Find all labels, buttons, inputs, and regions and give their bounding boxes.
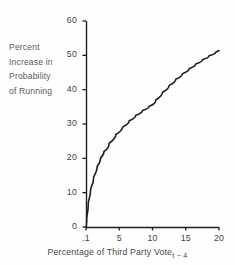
y-tick-label: 10 <box>55 187 77 197</box>
x-tick-label: 10 <box>140 233 166 243</box>
y-tick-label: 50 <box>55 49 77 59</box>
y-tick-label: 60 <box>55 15 77 25</box>
x-tick-label: 20 <box>206 233 232 243</box>
data-series-line <box>86 51 219 227</box>
x-axis-label-text: Percentage of Third Party Vote <box>48 247 173 257</box>
y-tick-label: 0 <box>55 221 77 231</box>
y-tick-label: 30 <box>55 118 77 128</box>
chart-figure: Percent Increase in Probability of Runni… <box>0 0 235 265</box>
x-tick-label: .1 <box>73 233 99 243</box>
y-tick-label: 20 <box>55 152 77 162</box>
y-tick-label: 40 <box>55 84 77 94</box>
y-axis-ticks <box>83 21 87 227</box>
x-axis-label: Percentage of Third Party Votet − 4 <box>0 247 235 259</box>
x-tick-label: 5 <box>106 233 132 243</box>
x-axis-label-subscript: t − 4 <box>172 252 187 259</box>
plot-area <box>0 0 235 265</box>
x-tick-label: 15 <box>173 233 199 243</box>
